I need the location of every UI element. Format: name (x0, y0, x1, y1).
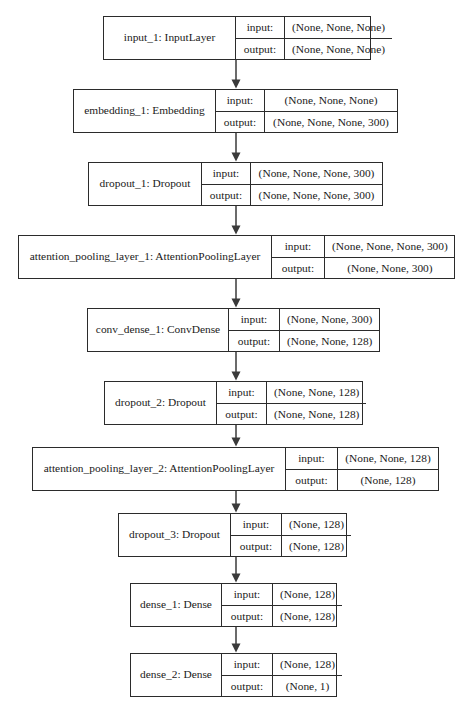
input-shape-value: (None, None, None, 300) (325, 236, 455, 257)
input-cell-label: input: (222, 584, 273, 605)
layer-name-label: input_1: InputLayer (104, 17, 235, 59)
shape-row-input: input:(None, 128) (222, 654, 342, 676)
input-shape-value: (None, 128) (273, 654, 342, 675)
layer-name-label: embedding_1: Embedding (74, 90, 215, 132)
output-shape-value: (None, None, None) (285, 39, 392, 60)
layer-node-attention_pooling_layer_2: attention_pooling_layer_2: AttentionPool… (32, 447, 439, 491)
shape-row-output: output:(None, 128) (286, 470, 438, 491)
layer-shape-table: input:(None, None, None)output:(None, No… (235, 17, 392, 59)
shape-row-input: input:(None, None, None, 300) (202, 163, 382, 185)
layer-name-label: attention_pooling_layer_1: AttentionPool… (19, 236, 271, 278)
shape-row-input: input:(None, 128) (231, 514, 351, 536)
arrow-dropout_1-to-attention_pooling_layer_1 (232, 206, 241, 235)
shape-row-input: input:(None, None, None, 300) (272, 236, 455, 258)
layer-shape-table: input:(None, None, 300)output:(None, Non… (228, 309, 379, 351)
output-shape-value: (None, 128) (282, 536, 351, 557)
output-shape-value: (None, 1) (273, 676, 342, 697)
layer-shape-table: input:(None, 128)output:(None, 128) (230, 514, 351, 556)
layer-shape-table: input:(None, None, None, 300)output:(Non… (201, 163, 382, 205)
output-cell-label: output: (202, 185, 251, 206)
input-cell-label: input: (231, 514, 282, 535)
arrow-dense_1-to-dense_2 (232, 627, 241, 653)
output-shape-value: (None, None, None, 300) (251, 185, 382, 206)
arrow-dropout_2-to-attention_pooling_layer_2 (232, 425, 241, 447)
layer-name-label: dropout_3: Dropout (119, 514, 230, 556)
shape-row-output: output:(None, 1) (222, 676, 342, 697)
shape-row-output: output:(None, 128) (231, 536, 351, 557)
output-cell-label: output: (216, 112, 265, 133)
arrow-dropout_3-to-dense_1 (232, 557, 241, 583)
output-shape-value: (None, 128) (338, 470, 438, 491)
arrow-conv_dense_1-to-dropout_2 (232, 352, 241, 381)
input-cell-label: input: (286, 448, 338, 469)
shape-row-input: input:(None, None, None) (236, 17, 392, 39)
input-shape-value: (None, None, 128) (267, 382, 366, 403)
layer-name-label: attention_pooling_layer_2: AttentionPool… (33, 448, 285, 490)
arrow-embedding_1-to-dropout_1 (232, 133, 241, 162)
input-cell-label: input: (217, 382, 267, 403)
output-shape-value: (None, None, None, 300) (265, 112, 397, 133)
layer-name-label: dropout_1: Dropout (89, 163, 201, 205)
shape-row-input: input:(None, None, 128) (217, 382, 366, 404)
layer-name-label: conv_dense_1: ConvDense (88, 309, 228, 351)
shape-row-output: output:(None, None, 128) (229, 331, 379, 352)
input-shape-value: (None, None, None, 300) (251, 163, 382, 184)
shape-row-output: output:(None, None, 300) (272, 258, 455, 279)
layer-node-dense_1: dense_1: Denseinput:(None, 128)output:(N… (130, 583, 337, 627)
layer-node-dense_2: dense_2: Denseinput:(None, 128)output:(N… (130, 653, 337, 697)
shape-row-output: output:(None, None, None, 300) (202, 185, 382, 206)
output-cell-label: output: (217, 404, 267, 425)
output-cell-label: output: (231, 536, 282, 557)
output-cell-label: output: (236, 39, 285, 60)
layer-node-embedding_1: embedding_1: Embeddinginput:(None, None,… (73, 89, 398, 133)
arrow-attention_pooling_layer_2-to-dropout_3 (232, 491, 241, 513)
input-cell-label: input: (202, 163, 251, 184)
shape-row-input: input:(None, None, 300) (229, 309, 379, 331)
output-shape-value: (None, None, 128) (267, 404, 366, 425)
layer-name-label: dense_2: Dense (131, 654, 221, 696)
shape-row-output: output:(None, 128) (222, 606, 342, 627)
layer-node-dropout_2: dropout_2: Dropoutinput:(None, None, 128… (104, 381, 363, 425)
layer-node-input_1: input_1: InputLayerinput:(None, None, No… (103, 16, 371, 60)
layer-shape-table: input:(None, None, 128)output:(None, Non… (216, 382, 366, 424)
layer-node-conv_dense_1: conv_dense_1: ConvDenseinput:(None, None… (87, 308, 380, 352)
input-shape-value: (None, None, None) (285, 17, 392, 38)
output-cell-label: output: (222, 676, 273, 697)
input-shape-value: (None, 128) (282, 514, 351, 535)
shape-row-output: output:(None, None, 128) (217, 404, 366, 425)
input-cell-label: input: (216, 90, 265, 111)
output-shape-value: (None, None, 300) (325, 258, 455, 279)
layer-shape-table: input:(None, 128)output:(None, 128) (221, 584, 342, 626)
input-shape-value: (None, None, 300) (280, 309, 379, 330)
input-shape-value: (None, 128) (273, 584, 342, 605)
layer-shape-table: input:(None, None, None)output:(None, No… (215, 90, 397, 132)
layer-shape-table: input:(None, None, None, 300)output:(Non… (271, 236, 455, 278)
shape-row-input: input:(None, None, 128) (286, 448, 438, 470)
output-cell-label: output: (222, 606, 273, 627)
input-cell-label: input: (229, 309, 280, 330)
layer-node-attention_pooling_layer_1: attention_pooling_layer_1: AttentionPool… (18, 235, 455, 279)
output-shape-value: (None, None, 128) (280, 331, 379, 352)
input-cell-label: input: (272, 236, 325, 257)
layer-name-label: dense_1: Dense (131, 584, 221, 626)
shape-row-output: output:(None, None, None, 300) (216, 112, 397, 133)
layer-node-dropout_3: dropout_3: Dropoutinput:(None, 128)outpu… (118, 513, 347, 557)
layer-shape-table: input:(None, None, 128)output:(None, 128… (285, 448, 438, 490)
input-cell-label: input: (236, 17, 285, 38)
input-cell-label: input: (222, 654, 273, 675)
layer-node-dropout_1: dropout_1: Dropoutinput:(None, None, Non… (88, 162, 383, 206)
output-cell-label: output: (272, 258, 325, 279)
model-architecture-diagram: input_1: InputLayerinput:(None, None, No… (0, 0, 471, 711)
input-shape-value: (None, None, 128) (338, 448, 438, 469)
shape-row-output: output:(None, None, None) (236, 39, 392, 60)
shape-row-input: input:(None, 128) (222, 584, 342, 606)
output-cell-label: output: (229, 331, 280, 352)
input-shape-value: (None, None, None) (265, 90, 397, 111)
layer-name-label: dropout_2: Dropout (105, 382, 216, 424)
shape-row-input: input:(None, None, None) (216, 90, 397, 112)
output-shape-value: (None, 128) (273, 606, 342, 627)
output-cell-label: output: (286, 470, 338, 491)
arrow-attention_pooling_layer_1-to-conv_dense_1 (232, 279, 241, 308)
arrow-input_1-to-embedding_1 (232, 60, 241, 89)
layer-shape-table: input:(None, 128)output:(None, 1) (221, 654, 342, 696)
